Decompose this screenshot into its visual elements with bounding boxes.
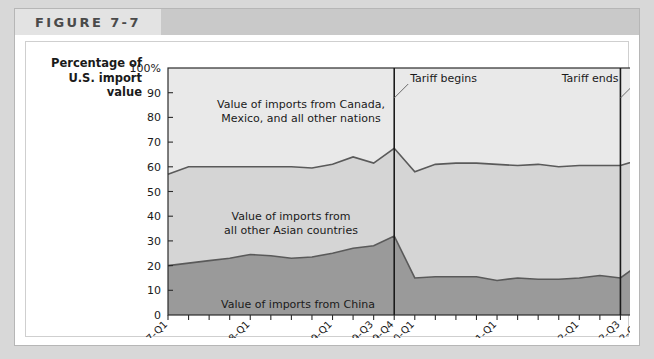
- series-label-line-1: Value of imports from Canada,: [217, 98, 385, 111]
- y-tick-label: 10: [147, 284, 161, 297]
- series-label-label-other-nations: Value of imports from Canada,Mexico, and…: [217, 98, 385, 125]
- stacked-area-chart: 0102030405060708090100% 2007-Q12008-Q120…: [26, 42, 630, 338]
- y-tick-label: 60: [147, 161, 161, 174]
- y-tick-label: 40: [147, 210, 161, 223]
- figure-plate: Percentage of U.S. import value 01020304…: [25, 41, 629, 337]
- y-axis-ticks: 0102030405060708090100%: [130, 62, 173, 322]
- x-tick-label: 2012-Q3: [583, 319, 622, 338]
- x-tick-label: 2009-Q3: [336, 319, 375, 338]
- series-label-line-1: Value of imports from China: [221, 298, 375, 311]
- y-tick-label: 70: [147, 136, 161, 149]
- figure-page: FIGURE 7-7 Percentage of U.S. import val…: [0, 0, 654, 359]
- x-tick-label: 2012-Q1: [542, 319, 581, 338]
- x-tick-label: 2007-Q1: [131, 319, 170, 338]
- x-tick-label: 2009-Q1: [295, 319, 334, 338]
- y-tick-label: 100%: [130, 62, 161, 75]
- series-label-label-other-asian: Value of imports fromall other Asian cou…: [224, 210, 358, 237]
- x-tick-label: 2008-Q1: [213, 319, 252, 338]
- figure-card: FIGURE 7-7 Percentage of U.S. import val…: [14, 8, 640, 346]
- x-tick-label: 2011-Q1: [460, 319, 499, 338]
- figure-label: FIGURE 7-7: [35, 15, 141, 30]
- figure-header-band: FIGURE 7-7: [15, 9, 639, 35]
- annotation-label-tariff-ends: Tariff ends: [561, 72, 619, 85]
- y-tick-label: 20: [147, 260, 161, 273]
- series-label-line-1: Value of imports from: [232, 210, 351, 223]
- series-label-label-china: Value of imports from China: [221, 298, 375, 311]
- series-label-line-2: Mexico, and all other nations: [221, 112, 381, 125]
- series-label-line-2: all other Asian countries: [224, 224, 358, 237]
- x-axis-ticks: 2007-Q12008-Q12009-Q12009-Q32009-Q42010-…: [131, 315, 630, 338]
- y-tick-label: 30: [147, 235, 161, 248]
- y-tick-label: 80: [147, 111, 161, 124]
- annotation-label-tariff-begins: Tariff begins: [409, 72, 477, 85]
- y-tick-label: 90: [147, 87, 161, 100]
- y-tick-label: 50: [147, 186, 161, 199]
